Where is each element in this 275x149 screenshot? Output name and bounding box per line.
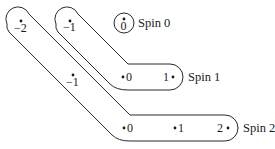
spin-1-label: Spin 1 bbox=[188, 70, 220, 84]
spin-2-label: Spin 2 bbox=[243, 121, 275, 135]
spin-0-group: 0 Spin 0 bbox=[114, 13, 170, 33]
state-minus1-label: −1 bbox=[66, 75, 79, 89]
state-1-label: 1 bbox=[178, 121, 184, 135]
spin-states-diagram: 0 Spin 0 −1 0 1 Spin 1 −2 −1 0 1 2 Spin … bbox=[0, 0, 275, 149]
state-0-label: 0 bbox=[121, 19, 127, 33]
state-dot bbox=[227, 127, 230, 130]
state-2-label: 2 bbox=[217, 121, 223, 135]
state-0-label: 0 bbox=[126, 70, 132, 84]
state-dot bbox=[122, 76, 125, 79]
state-1-label: 1 bbox=[163, 70, 169, 84]
spin-0-label: Spin 0 bbox=[138, 16, 170, 30]
state-dot bbox=[174, 127, 177, 130]
state-dot bbox=[123, 127, 126, 130]
state-minus2-label: −2 bbox=[14, 21, 27, 35]
state-0-label: 0 bbox=[127, 121, 133, 135]
state-minus1-label: −1 bbox=[63, 20, 76, 34]
state-dot bbox=[172, 76, 175, 79]
